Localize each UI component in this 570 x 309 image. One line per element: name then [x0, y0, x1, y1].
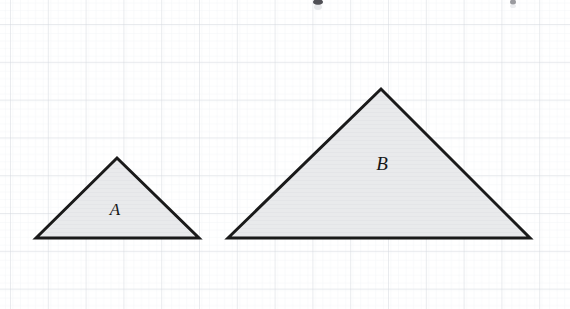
triangle-b-label: B	[376, 153, 388, 174]
triangle-a-label: A	[109, 200, 121, 219]
figure-canvas: A B	[0, 0, 570, 309]
graph-paper-grid	[0, 0, 570, 309]
triangles-figure: A B	[0, 0, 570, 309]
